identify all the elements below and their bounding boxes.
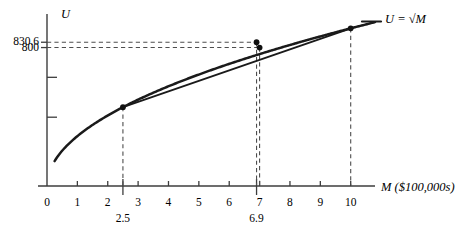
x-tick-label-0: 0	[33, 197, 61, 209]
x-tick-label-7: 7	[246, 197, 274, 209]
point-expected-utility	[254, 39, 260, 45]
x-tick-label-5: 5	[185, 197, 213, 209]
x-tick-label-3: 3	[124, 197, 152, 209]
x-extra-tick-label-2.5: 2.5	[107, 213, 139, 225]
x-tick-label-2: 2	[94, 197, 122, 209]
chart-figure: U M ($100,000s) U = √M 830.6800 01234567…	[0, 0, 458, 227]
y-tick-label-800: 800	[22, 42, 39, 54]
dashed-guide-lines	[47, 28, 351, 185]
x-tick-label-8: 8	[276, 197, 304, 209]
x-extra-tick-label-6.9: 6.9	[241, 213, 273, 225]
x-axis-extra-ticks	[123, 179, 257, 195]
x-axis-ticks	[77, 181, 350, 186]
axes-group	[38, 14, 375, 186]
x-axis-title: M ($100,000s)	[381, 181, 455, 194]
curve-label: U = √M	[385, 13, 426, 26]
point-endpoint	[348, 25, 354, 31]
x-tick-label-10: 10	[337, 197, 365, 209]
x-tick-label-6: 6	[215, 197, 243, 209]
x-tick-label-4: 4	[154, 197, 182, 209]
point-tangency-start	[120, 104, 126, 110]
y-axis-title: U	[61, 8, 70, 21]
x-tick-label-9: 9	[306, 197, 334, 209]
x-tick-label-1: 1	[63, 197, 91, 209]
sqrt-curve	[55, 22, 375, 161]
y-axis-ticks	[41, 42, 57, 117]
point-certainty-equivalent	[257, 45, 263, 51]
chord-line	[123, 28, 351, 107]
